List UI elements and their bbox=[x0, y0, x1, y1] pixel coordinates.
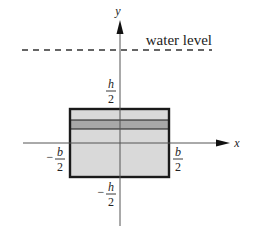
water-level-label: water level bbox=[146, 32, 212, 48]
tick-right-numerator: b bbox=[175, 145, 181, 159]
tick-label-bottom: − h 2 bbox=[98, 180, 116, 209]
x-axis-arrow-icon bbox=[216, 140, 230, 147]
tick-top-denominator: 2 bbox=[108, 92, 114, 106]
tick-top-numerator: h bbox=[108, 77, 114, 91]
tick-label-left: − b 2 bbox=[47, 145, 65, 174]
y-axis-arrow-icon bbox=[117, 20, 124, 34]
x-axis-label: x bbox=[233, 136, 240, 150]
tick-right-denominator: 2 bbox=[175, 160, 181, 174]
tick-left-sign: − bbox=[47, 150, 54, 164]
tick-bottom-sign: − bbox=[98, 185, 105, 199]
tick-label-right: b 2 bbox=[173, 145, 183, 174]
tick-left-numerator: b bbox=[57, 145, 63, 159]
tick-bottom-denominator: 2 bbox=[108, 195, 114, 209]
tick-left-denominator: 2 bbox=[57, 160, 63, 174]
y-axis-label: y bbox=[114, 4, 121, 18]
tick-label-top: h 2 bbox=[106, 77, 116, 106]
tick-bottom-numerator: h bbox=[108, 180, 114, 194]
diagram-canvas: water level y x h 2 − h 2 − b 2 b 2 bbox=[0, 0, 257, 237]
